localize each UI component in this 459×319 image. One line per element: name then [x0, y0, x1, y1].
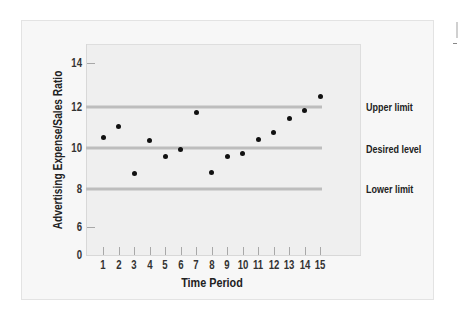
- x-tick-mark: [212, 247, 213, 255]
- data-point: [225, 154, 230, 159]
- edge-fragment: [456, 22, 458, 38]
- x-tick-label: 6: [173, 258, 189, 272]
- x-tick-mark: [181, 247, 182, 255]
- x-axis-title: Time Period: [181, 276, 243, 290]
- x-tick-mark: [103, 247, 104, 255]
- x-tick-label: 11: [250, 258, 266, 272]
- x-tick-mark: [119, 247, 120, 255]
- y-tick-label: 10: [66, 141, 82, 155]
- data-point: [287, 116, 292, 121]
- x-tick-mark: [150, 247, 151, 255]
- x-tick-mark: [258, 247, 259, 255]
- y-tick-mark-14: [87, 63, 95, 64]
- data-point: [318, 94, 323, 99]
- x-tick-label: 13: [281, 258, 297, 272]
- x-tick-label: 5: [157, 258, 173, 272]
- y-tick-label: 8: [66, 182, 82, 196]
- x-tick-mark: [227, 247, 228, 255]
- x-tick-mark: [274, 247, 275, 255]
- y-axis-title: Advertising Expense/Sales Ratio: [51, 71, 65, 230]
- x-tick-label: 3: [126, 258, 142, 272]
- x-tick-label: 12: [266, 258, 282, 272]
- x-tick-label: 1: [95, 258, 111, 272]
- x-tick-label: 15: [312, 258, 328, 272]
- y-axis-line: [86, 44, 87, 256]
- lower-limit-label: Lower limit: [366, 183, 413, 195]
- y-tick-label: 14: [66, 56, 82, 70]
- x-tick-mark: [289, 247, 290, 255]
- x-tick-mark: [320, 247, 321, 255]
- upper-limit-label: Upper limit: [366, 101, 413, 113]
- data-point: [178, 147, 183, 152]
- x-axis-line: [86, 255, 361, 256]
- x-tick-mark: [243, 247, 244, 255]
- desired-level-line: [86, 147, 322, 150]
- data-point: [163, 154, 168, 159]
- x-tick-label: 9: [219, 258, 235, 272]
- y-tick-label: 6: [66, 220, 82, 234]
- x-tick-mark: [305, 247, 306, 255]
- lower-limit-line: [86, 187, 322, 190]
- x-tick-label: 7: [188, 258, 204, 272]
- data-point: [240, 151, 245, 156]
- x-tick-label: 2: [111, 258, 127, 272]
- plot-area: [86, 44, 361, 255]
- data-point: [101, 135, 106, 140]
- desired-level-label: Desired level: [366, 143, 421, 155]
- y-tick-label: 0: [66, 248, 82, 262]
- edge-fragment-dash: [453, 43, 457, 44]
- x-tick-label: 14: [297, 258, 313, 272]
- x-tick-mark: [165, 247, 166, 255]
- y-tick-mark-6: [87, 227, 95, 228]
- x-tick-mark: [134, 247, 135, 255]
- x-tick-label: 10: [235, 258, 251, 272]
- x-tick-label: 8: [204, 258, 220, 272]
- x-tick-label: 4: [142, 258, 158, 272]
- upper-limit-line: [86, 105, 322, 108]
- x-tick-mark: [196, 247, 197, 255]
- y-tick-label: 12: [66, 100, 82, 114]
